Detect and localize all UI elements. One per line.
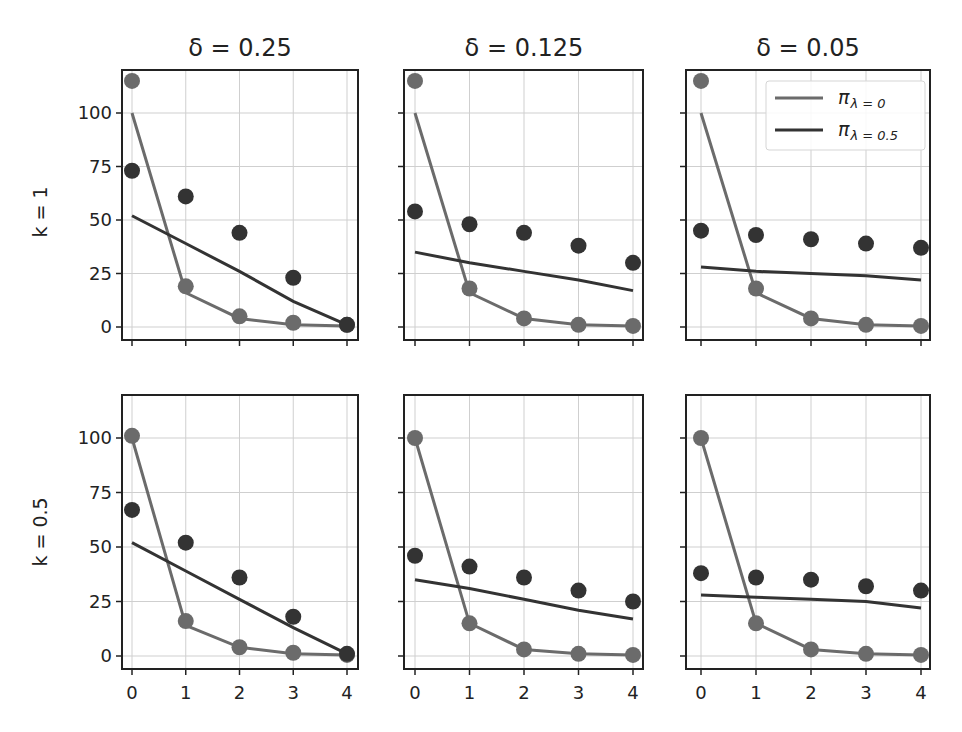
x-tick-label: 4	[915, 682, 926, 703]
point-lambda-0	[407, 430, 423, 446]
point-lambda-0	[858, 646, 874, 662]
point-lambda-0	[803, 641, 819, 657]
point-lambda-0.5	[339, 646, 355, 662]
panel-6: 01234	[680, 395, 930, 703]
x-tick-label: 4	[341, 682, 352, 703]
point-lambda-0	[178, 613, 194, 629]
col-title-2: δ = 0.125	[465, 34, 584, 62]
point-lambda-0.5	[232, 570, 248, 586]
x-tick-label: 3	[288, 682, 299, 703]
point-lambda-0	[748, 280, 764, 296]
point-lambda-0.5	[625, 255, 641, 271]
point-lambda-0.5	[693, 565, 709, 581]
point-lambda-0	[285, 645, 301, 661]
point-lambda-0.5	[124, 163, 140, 179]
point-lambda-0.5	[913, 240, 929, 256]
point-lambda-0	[913, 647, 929, 663]
x-tick-label: 1	[464, 682, 475, 703]
x-tick-label: 2	[805, 682, 816, 703]
point-lambda-0	[124, 428, 140, 444]
point-lambda-0.5	[124, 502, 140, 518]
row-label-1: k = 1	[29, 186, 51, 237]
y-tick-label: 0	[101, 645, 112, 666]
figure: 02550751000123402550751000123401234 δ = …	[0, 0, 962, 732]
point-lambda-0.5	[748, 570, 764, 586]
point-lambda-0	[232, 308, 248, 324]
point-lambda-0.5	[178, 535, 194, 551]
panel-2	[398, 70, 643, 346]
x-tick-label: 1	[750, 682, 761, 703]
point-lambda-0.5	[516, 570, 532, 586]
x-tick-label: 3	[573, 682, 584, 703]
point-lambda-0.5	[858, 236, 874, 252]
panel-4: 012340255075100	[78, 395, 358, 703]
point-lambda-0	[625, 318, 641, 334]
x-tick-label: 0	[409, 682, 420, 703]
y-tick-label: 100	[78, 427, 112, 448]
y-tick-label: 100	[78, 102, 112, 123]
point-lambda-0.5	[803, 572, 819, 588]
y-tick-label: 25	[89, 591, 112, 612]
point-lambda-0.5	[339, 317, 355, 333]
point-lambda-0.5	[285, 609, 301, 625]
y-tick-label: 0	[101, 316, 112, 337]
point-lambda-0	[913, 318, 929, 334]
point-lambda-0	[858, 317, 874, 333]
point-lambda-0.5	[571, 238, 587, 254]
point-lambda-0	[748, 615, 764, 631]
point-lambda-0	[232, 639, 248, 655]
x-tick-label: 2	[518, 682, 529, 703]
x-tick-label: 4	[627, 682, 638, 703]
point-lambda-0	[516, 310, 532, 326]
panel-5: 01234	[398, 395, 643, 703]
x-tick-label: 0	[126, 682, 137, 703]
point-lambda-0.5	[462, 559, 478, 575]
point-lambda-0	[571, 317, 587, 333]
col-title-1: δ = 0.25	[188, 34, 292, 62]
point-lambda-0	[407, 73, 423, 89]
point-lambda-0.5	[232, 225, 248, 241]
x-tick-label: 2	[234, 682, 245, 703]
axes-frame	[686, 395, 930, 669]
point-lambda-0	[285, 315, 301, 331]
point-lambda-0.5	[516, 225, 532, 241]
point-lambda-0.5	[462, 216, 478, 232]
panel-1: 0255075100	[78, 70, 358, 346]
point-lambda-0	[516, 641, 532, 657]
point-lambda-0	[462, 280, 478, 296]
y-tick-label: 25	[89, 263, 112, 284]
legend: πλ = 0 πλ = 0.5	[766, 81, 925, 150]
y-tick-label: 75	[89, 482, 112, 503]
x-tick-label: 1	[180, 682, 191, 703]
point-lambda-0.5	[858, 578, 874, 594]
point-lambda-0.5	[625, 594, 641, 610]
point-lambda-0.5	[693, 223, 709, 239]
point-lambda-0.5	[407, 203, 423, 219]
x-tick-label: 3	[860, 682, 871, 703]
point-lambda-0.5	[913, 583, 929, 599]
point-lambda-0	[693, 73, 709, 89]
point-lambda-0.5	[178, 188, 194, 204]
y-tick-label: 50	[89, 209, 112, 230]
point-lambda-0	[124, 73, 140, 89]
point-lambda-0.5	[285, 270, 301, 286]
point-lambda-0	[178, 278, 194, 294]
y-tick-label: 50	[89, 536, 112, 557]
point-lambda-0	[693, 430, 709, 446]
point-lambda-0	[625, 647, 641, 663]
col-title-3: δ = 0.05	[756, 34, 860, 62]
y-tick-label: 75	[89, 156, 112, 177]
point-lambda-0.5	[803, 231, 819, 247]
point-lambda-0	[571, 646, 587, 662]
point-lambda-0.5	[748, 227, 764, 243]
point-lambda-0.5	[407, 548, 423, 564]
row-label-2: k = 0.5	[29, 497, 51, 566]
x-tick-label: 0	[695, 682, 706, 703]
point-lambda-0.5	[571, 583, 587, 599]
point-lambda-0	[803, 310, 819, 326]
point-lambda-0	[462, 615, 478, 631]
